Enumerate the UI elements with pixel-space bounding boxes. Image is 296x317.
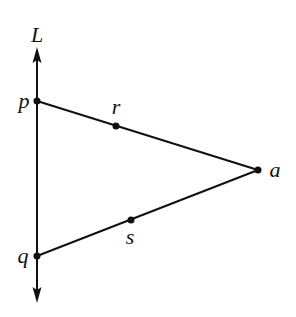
label-p: p	[17, 88, 30, 113]
label-a: a	[270, 157, 281, 182]
point-q	[34, 253, 41, 260]
segment-pa	[37, 101, 258, 170]
label-r: r	[112, 94, 121, 119]
segment-qa	[37, 170, 258, 256]
diagram-svg: L p r a s q	[0, 0, 296, 317]
label-L: L	[30, 22, 43, 47]
point-p	[34, 98, 41, 105]
label-q: q	[18, 243, 29, 268]
label-s: s	[126, 224, 135, 249]
point-r	[113, 123, 120, 130]
point-a	[255, 167, 262, 174]
point-s	[128, 217, 135, 224]
line-L	[33, 47, 42, 303]
geometry-diagram: L p r a s q	[0, 0, 296, 317]
